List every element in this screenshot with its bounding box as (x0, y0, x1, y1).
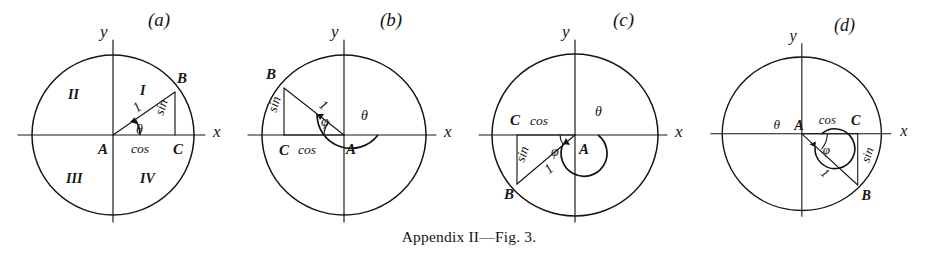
axis-label-x-c: x (674, 122, 683, 141)
axis-label-y-c: y (560, 22, 570, 41)
point-label-c-b: C (279, 142, 290, 158)
phi-label-c: φ (551, 144, 559, 159)
panel-label-b: (b) (380, 9, 402, 31)
radius-value-d: 1 (818, 165, 833, 181)
axis-label-y-d: y (787, 27, 797, 45)
theta-arc-d (815, 129, 855, 169)
phi-arc-c (560, 135, 563, 144)
point-label-b-b: B (265, 66, 276, 82)
figure-caption: Appendix II—Fig. 3. (0, 228, 938, 246)
phi-label-b: φ (321, 114, 329, 129)
point-label-c-c: C (510, 112, 521, 128)
axis-label-x-a: x (212, 122, 221, 141)
quadrant-label-iii-a: III (65, 171, 83, 186)
axis-label-y-b: y (329, 22, 339, 41)
sin-label-a: sin (152, 97, 171, 117)
panel-c: (c) x y B A C 1 cos sin θ φ (455, 0, 690, 225)
quadrant-label-ii-a: II (67, 87, 79, 102)
point-label-a-d: A (793, 117, 803, 133)
theta-label-b: θ (361, 108, 368, 123)
point-label-c-a: C (173, 141, 184, 157)
cos-label-d: cos (819, 113, 836, 127)
radius-value-c: 1 (541, 161, 556, 177)
theta-label-c: θ (595, 104, 602, 119)
quadrant-label-iv-a: IV (139, 171, 156, 186)
point-label-a-b: A (345, 141, 356, 157)
point-label-a-c: A (578, 141, 589, 157)
sin-label-d: sin (859, 146, 877, 165)
figure-appendix-ii-fig-3: (a) x y II I III IV B A C 1 cos sin θ (0, 0, 938, 257)
sin-label-b: sin (265, 94, 284, 114)
panel-a: (a) x y II I III IV B A C 1 cos sin θ (0, 0, 235, 225)
radius-line-b (284, 88, 344, 135)
axis-label-x-b: x (443, 122, 452, 141)
radius-value-a: 1 (130, 99, 144, 115)
phi-label-d: φ (823, 142, 830, 157)
point-label-b-c: B (503, 186, 514, 202)
panel-label-a: (a) (148, 9, 170, 31)
point-label-b-d: B (861, 187, 871, 203)
panel-label-c: (c) (613, 9, 634, 31)
panel-d: (d) x y B A C 1 cos sin θ φ (690, 0, 925, 225)
cos-label-b: cos (298, 142, 316, 157)
panel-label-d: (d) (834, 15, 855, 36)
quadrant-label-i-a: I (139, 83, 146, 98)
theta-label-a: θ (136, 122, 143, 137)
axis-label-x-d: x (899, 122, 908, 139)
theta-arrow-c (563, 138, 570, 145)
axis-label-y-a: y (98, 22, 108, 41)
sin-label-c: sin (513, 144, 532, 164)
radius-value-b: 1 (316, 97, 331, 113)
cos-label-a: cos (131, 141, 149, 156)
theta-label-d: θ (773, 117, 780, 132)
point-label-a-a: A (97, 141, 108, 157)
cos-label-c: cos (530, 113, 548, 128)
panel-b: (b) x y B A C 1 cos sin θ φ (228, 0, 463, 225)
point-label-c-d: C (851, 112, 861, 128)
point-label-b-a: B (176, 70, 187, 86)
